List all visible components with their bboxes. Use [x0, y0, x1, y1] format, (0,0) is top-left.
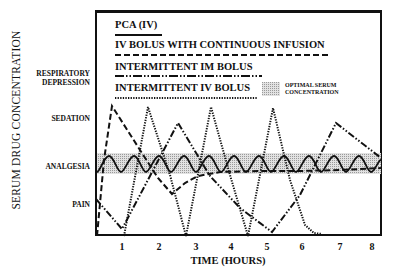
- x-tick-4: 4: [229, 241, 234, 252]
- x-tick-3: 3: [194, 241, 199, 252]
- legend-label-iv: INTERMITTENT IV BOLUS: [115, 82, 250, 93]
- x-tick-5: 5: [265, 241, 270, 252]
- x-axis-title-text: TIME (HOURS): [191, 255, 266, 266]
- legend-label-iv-continuous: IV BOLUS WITH CONTINUOUS INFUSION: [115, 39, 325, 50]
- x-tick-1: 1: [120, 241, 125, 252]
- optimal-line2: CONCENTRATION: [285, 89, 339, 96]
- legend-label-optimal: OPTIMAL SERUM CONCENTRATION: [285, 82, 339, 96]
- optimal-line1: OPTIMAL SERUM: [285, 82, 339, 89]
- x-tick-7: 7: [338, 241, 343, 252]
- legend-label-im: INTERMITTENT IM BOLUS: [115, 61, 253, 72]
- x-tick-8: 8: [370, 241, 375, 252]
- x-tick-6: 6: [300, 241, 305, 252]
- series-im: [96, 123, 381, 232]
- legend-label-pca: PCA (IV): [115, 19, 157, 30]
- legend-swatch-optimal: [262, 82, 280, 96]
- x-tick-2: 2: [157, 241, 162, 252]
- x-axis-title: TIME (HOURS): [0, 255, 402, 266]
